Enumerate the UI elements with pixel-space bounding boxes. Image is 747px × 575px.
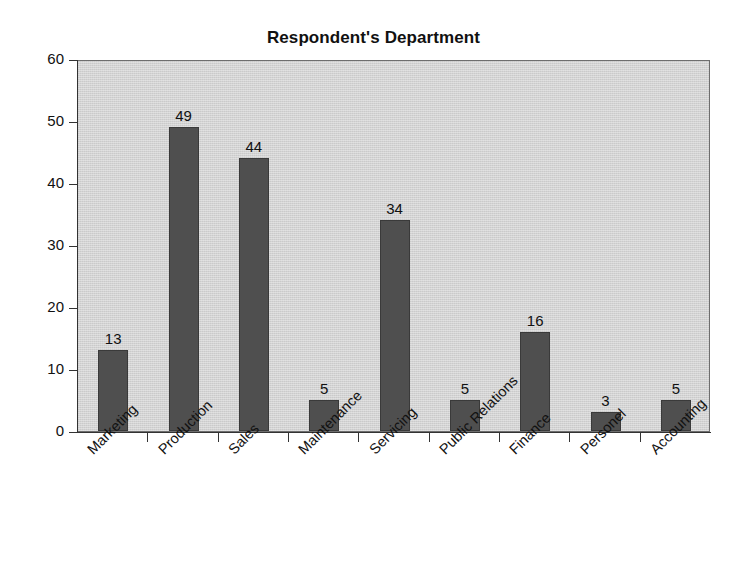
bar-value-label: 34 (365, 200, 425, 217)
bars-layer: 13494453451635 (78, 61, 709, 431)
bar (239, 158, 269, 431)
bar-value-label: 49 (154, 107, 214, 124)
plot-area: 13494453451635 (77, 60, 710, 432)
y-axis-label: 20 (22, 298, 64, 315)
bar-value-label: 16 (505, 312, 565, 329)
y-axis-label: 0 (22, 422, 64, 439)
y-axis-tick (69, 122, 78, 123)
chart-title: Respondent's Department (0, 28, 747, 48)
y-axis-label: 30 (22, 236, 64, 253)
y-axis-tick (69, 184, 78, 185)
bar (380, 220, 410, 431)
y-axis-tick (69, 308, 78, 309)
x-axis-tick (499, 433, 500, 442)
y-axis-tick (69, 246, 78, 247)
bar-value-label: 44 (224, 138, 284, 155)
bar (169, 127, 199, 431)
x-axis-tick (429, 433, 430, 442)
bar-value-label: 13 (83, 330, 143, 347)
bar-chart: Respondent's Department 13494453451635 0… (0, 0, 747, 575)
y-axis-label: 10 (22, 360, 64, 377)
x-axis-tick (640, 433, 641, 442)
y-axis-tick (69, 60, 78, 61)
x-axis-tick (288, 433, 289, 442)
x-axis-tick (569, 433, 570, 442)
x-axis-tick (358, 433, 359, 442)
y-axis-label: 60 (22, 50, 64, 67)
bar-value-label: 3 (576, 392, 636, 409)
x-axis-tick (147, 433, 148, 442)
y-axis-label: 40 (22, 174, 64, 191)
y-axis-label: 50 (22, 112, 64, 129)
y-axis-tick (69, 370, 78, 371)
x-axis-tick (218, 433, 219, 442)
